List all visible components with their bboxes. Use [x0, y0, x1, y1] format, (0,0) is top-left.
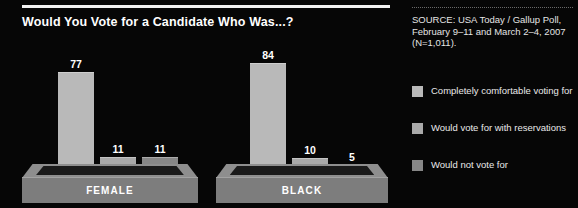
source-note: SOURCE: USA Today / Gallup Poll, Februar…: [412, 14, 575, 49]
pedestal-face-female: FEMALE: [22, 177, 198, 203]
group-label-female: FEMALE: [22, 178, 198, 203]
bar-value-black-2: 10: [292, 144, 328, 156]
legend-label-completely-comfortable: Completely comfortable voting for: [431, 85, 575, 98]
bar-black-completely-comfortable[interactable]: [250, 63, 286, 172]
info-panel: SOURCE: USA Today / Gallup Poll, Februar…: [404, 0, 578, 208]
pedestal-black: BLACK: [216, 164, 388, 204]
pedestal-inner-shadow-female: [36, 166, 184, 175]
info-divider: [412, 7, 574, 8]
chart-title: Would You Vote for a Candidate Who Was..…: [22, 15, 294, 29]
plot-area: 77 11 11 FEMALE: [0, 30, 396, 208]
chart-panel: Would You Vote for a Candidate Who Was..…: [0, 0, 396, 208]
bars-female: 77 11 11: [22, 30, 198, 172]
legend-label-would-not-vote: Would not vote for: [431, 159, 575, 172]
bars-black: 84 10 5: [216, 30, 388, 172]
pedestal-face-black: BLACK: [216, 177, 388, 203]
bar-value-black-3: 5: [334, 151, 370, 163]
title-rule: [22, 5, 390, 8]
legend: Completely comfortable voting for Would …: [412, 85, 575, 196]
pedestal-inner-shadow-black: [230, 166, 374, 175]
legend-swatch-with-reservations: [412, 123, 423, 134]
legend-label-with-reservations: Would vote for with reservations: [431, 122, 575, 135]
bar-value-female-3: 11: [142, 143, 178, 155]
group-label-black: BLACK: [216, 178, 388, 203]
bar-group-black: 84 10 5 BLACK: [216, 30, 388, 208]
pedestal-female: FEMALE: [22, 164, 198, 204]
bar-value-female-2: 11: [100, 143, 136, 155]
bar-value-black-1: 84: [250, 49, 286, 61]
legend-swatch-would-not-vote: [412, 160, 423, 171]
legend-item-with-reservations: Would vote for with reservations: [412, 122, 575, 148]
bar-female-completely-comfortable[interactable]: [58, 72, 94, 172]
legend-swatch-completely-comfortable: [412, 86, 423, 97]
legend-item-would-not-vote: Would not vote for: [412, 159, 575, 185]
bar-group-female: 77 11 11 FEMALE: [22, 30, 198, 208]
bar-value-female-1: 77: [58, 58, 94, 70]
infographic-root: Would You Vote for a Candidate Who Was..…: [0, 0, 578, 208]
legend-item-completely-comfortable: Completely comfortable voting for: [412, 85, 575, 111]
